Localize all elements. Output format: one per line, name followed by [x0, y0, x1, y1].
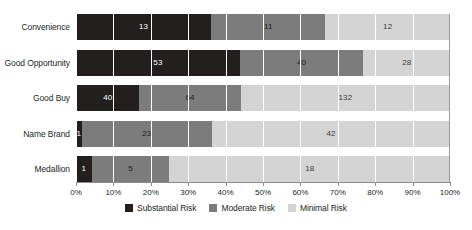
bar-segment: 12 — [325, 14, 450, 40]
y-axis-label: Good Opportunity — [0, 50, 70, 76]
bar-segment: 40 — [240, 50, 364, 76]
x-axis-tick — [263, 182, 264, 186]
bar-segment: 132 — [241, 85, 450, 111]
x-axis-tick — [113, 182, 114, 186]
bar-row: 12342 — [76, 121, 450, 147]
bar-segment: 23 — [82, 121, 212, 147]
legend-item[interactable]: Substantial Risk — [125, 203, 196, 213]
x-axis-tick-labels: 0%10%20%30%40%50%60%70%80%90%100% — [76, 188, 450, 202]
bar-row: 131112 — [76, 14, 450, 40]
bar-segment: 40 — [76, 85, 139, 111]
bar-segment-value: 28 — [402, 59, 411, 67]
x-axis-tick — [226, 182, 227, 186]
bar-segment-value: 40 — [103, 94, 112, 102]
chart-legend: Substantial RiskModerate RiskMinimal Ris… — [0, 203, 472, 213]
x-axis-tick — [338, 182, 339, 186]
y-axis-label: Good Buy — [0, 85, 70, 111]
plot-area: 1311125340284064132123421518 — [76, 14, 450, 182]
bar-segment: 53 — [76, 50, 240, 76]
bar-row: 1518 — [76, 156, 450, 182]
legend-swatch-icon — [209, 204, 217, 212]
legend-label: Minimal Risk — [300, 203, 347, 213]
bar-row: 534028 — [76, 50, 450, 76]
bar-segment-value: 1 — [77, 130, 82, 138]
x-axis-tick-label: 90% — [405, 188, 421, 197]
bar-segment: 64 — [139, 85, 240, 111]
bar-segment: 18 — [169, 156, 450, 182]
bar-segment-value: 18 — [305, 165, 314, 173]
bar-segment-value: 132 — [339, 94, 353, 102]
x-axis-tick-label: 0% — [70, 188, 82, 197]
bar-segment: 28 — [363, 50, 450, 76]
bar-segment: 1 — [76, 156, 92, 182]
bar-segment-value: 13 — [139, 23, 148, 31]
x-axis-tick — [76, 182, 77, 186]
bar-segment: 42 — [212, 121, 450, 147]
bar-segment: 11 — [211, 14, 325, 40]
x-axis-tick — [188, 182, 189, 186]
bar-segment: 13 — [76, 14, 211, 40]
bar-segment-value: 40 — [297, 59, 306, 67]
bar-segment-value: 23 — [142, 130, 151, 138]
x-axis-tick-label: 70% — [330, 188, 346, 197]
x-axis-tick — [151, 182, 152, 186]
bar-segment-value: 11 — [264, 23, 273, 31]
legend-item[interactable]: Moderate Risk — [209, 203, 275, 213]
x-axis-tick — [450, 182, 451, 186]
x-axis-tick — [300, 182, 301, 186]
bar-segment-value: 1 — [82, 165, 87, 173]
x-axis-tick-label: 40% — [218, 188, 234, 197]
y-axis-label: Medallion — [0, 156, 70, 182]
x-axis-tick — [375, 182, 376, 186]
bar-segment-value: 42 — [326, 130, 335, 138]
legend-swatch-icon — [125, 204, 133, 212]
bar-row: 4064132 — [76, 85, 450, 111]
y-axis-label: Convenience — [0, 14, 70, 40]
x-axis-tick-label: 30% — [180, 188, 196, 197]
legend-label: Moderate Risk — [221, 203, 275, 213]
bar-segment-value: 5 — [128, 165, 133, 173]
bar-segment-value: 12 — [383, 23, 392, 31]
bar-segment-value: 53 — [153, 59, 162, 67]
legend-item[interactable]: Minimal Risk — [288, 203, 347, 213]
bar-rows: 1311125340284064132123421518 — [76, 14, 450, 182]
x-axis-ticks — [76, 182, 450, 187]
x-axis-tick-label: 20% — [143, 188, 159, 197]
x-axis-tick-label: 10% — [105, 188, 121, 197]
x-axis-tick-label: 50% — [255, 188, 271, 197]
bar-segment: 5 — [92, 156, 170, 182]
x-axis-tick-label: 60% — [292, 188, 308, 197]
y-axis-category-labels: ConvenienceGood OpportunityGood BuyName … — [0, 14, 70, 182]
x-axis-tick-label: 100% — [440, 188, 460, 197]
stacked-bar-chart: ConvenienceGood OpportunityGood BuyName … — [0, 0, 472, 230]
legend-label: Substantial Risk — [137, 203, 196, 213]
legend-swatch-icon — [288, 204, 296, 212]
y-axis-label: Name Brand — [0, 121, 70, 147]
bar-segment-value: 64 — [186, 94, 195, 102]
x-axis-tick-label: 80% — [367, 188, 383, 197]
x-axis-tick — [413, 182, 414, 186]
